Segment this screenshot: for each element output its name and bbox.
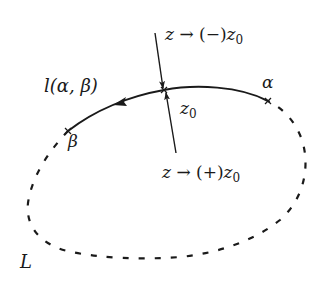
contour-diagram: z → (−)z0 l(α, β) α β z0 z → (+)z0 L xyxy=(0,0,326,285)
minus-approach-label: z → (−)z0 xyxy=(164,24,243,47)
minus-approach-arrow xyxy=(155,33,163,88)
arc-direction-arrow-icon xyxy=(113,97,127,106)
plus-approach-label: z → (+)z0 xyxy=(161,162,240,185)
beta-label: β xyxy=(67,131,78,151)
alpha-label: α xyxy=(262,72,274,92)
z0-label: z0 xyxy=(179,98,197,121)
plus-approach-arrow xyxy=(166,93,176,153)
arc-label: l(α, β) xyxy=(44,75,98,96)
contour-L-label: L xyxy=(19,251,32,272)
